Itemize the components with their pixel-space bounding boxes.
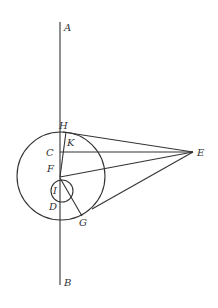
line-tangent-E [92, 152, 193, 209]
label-C: C [46, 147, 54, 158]
label-B: B [63, 277, 71, 288]
geometry-diagram: A B H K C E F I D G [0, 0, 218, 308]
label-G: G [79, 217, 87, 228]
label-H: H [58, 120, 68, 131]
line-FE [60, 152, 193, 177]
line-HE [63, 132, 193, 152]
line-HF [60, 132, 66, 177]
label-D: D [48, 201, 57, 212]
label-I: I [52, 185, 58, 196]
large-circle [17, 132, 105, 220]
label-K: K [66, 137, 75, 148]
line-IG [60, 178, 82, 216]
label-F: F [46, 163, 55, 174]
label-A: A [63, 22, 71, 33]
label-E: E [196, 147, 205, 158]
